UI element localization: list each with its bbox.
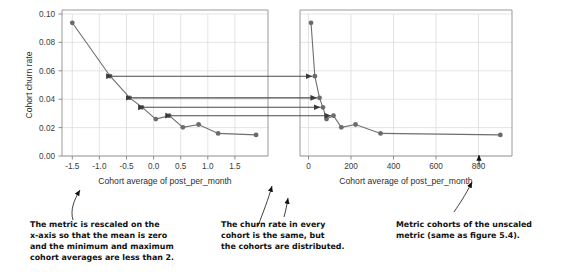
data-point [353, 122, 358, 127]
data-point [216, 131, 221, 136]
figure-container: 0.00 0.02 0.04 0.06 0.08 0.10 -1.5 -1.0 … [0, 0, 562, 272]
data-point [331, 113, 336, 118]
left-panel-ylabel: Cohort churn rate [24, 51, 34, 118]
note-left-line-1: x-axis so that the mean is zero [30, 231, 168, 240]
left-xtick-1: -1.0 [92, 162, 107, 171]
data-point [339, 125, 344, 130]
data-point [108, 74, 113, 79]
left-xtick-5: 1.0 [202, 162, 214, 171]
left-ytick-5: 0.10 [39, 10, 55, 19]
left-xtick-3: 0.0 [148, 162, 160, 171]
left-xtick-4: 0.5 [175, 162, 187, 171]
note-middle-line-0: The churn rate in every [221, 220, 325, 229]
note-left-line-3: cohort averages are less than 2. [30, 253, 174, 262]
left-xtick-6: 1.5 [229, 162, 241, 171]
note-left-line-2: and the minimum and maximum [30, 242, 174, 251]
note-middle-line-2: the cohorts are distributed. [221, 242, 345, 251]
right-xtick-1: 200 [344, 162, 358, 171]
right-xtick-2: 400 [387, 162, 401, 171]
data-point [309, 20, 314, 25]
data-point [317, 95, 322, 100]
data-point [127, 95, 132, 100]
data-point [70, 20, 75, 25]
left-panel-xlabel: Cohort average of post_per_month [98, 176, 232, 186]
note-middle-line-1: cohort is the same, but [221, 231, 325, 240]
data-point [254, 133, 259, 138]
note-right-line-0: Metric cohorts of the unscaled [396, 220, 532, 229]
note-right-line-1: metric (same as figure 5.4). [396, 231, 520, 240]
left-ytick-4: 0.08 [39, 38, 55, 47]
data-point [167, 113, 172, 118]
left-xtick-0: -1.5 [65, 162, 80, 171]
left-ytick-2: 0.04 [39, 95, 55, 104]
left-xtick-2: -0.5 [119, 162, 134, 171]
figure-svg: 0.00 0.02 0.04 0.06 0.08 0.10 -1.5 -1.0 … [0, 0, 562, 272]
left-ytick-1: 0.02 [39, 124, 55, 133]
data-point [140, 105, 145, 110]
right-panel-xlabel: Cohort average of post_per_month [339, 176, 473, 186]
data-point [498, 133, 503, 138]
data-point [321, 105, 326, 110]
data-point [324, 117, 329, 122]
data-point [378, 131, 383, 136]
data-point [180, 125, 185, 130]
data-point [312, 74, 317, 79]
left-ytick-0: 0.00 [39, 152, 55, 161]
data-point [153, 117, 158, 122]
right-xtick-0: 0 [306, 162, 311, 171]
right-xtick-3: 600 [429, 162, 443, 171]
data-point [196, 122, 201, 127]
left-ytick-3: 0.06 [39, 67, 55, 76]
note-left-line-0: The metric is rescaled on the [30, 220, 160, 229]
